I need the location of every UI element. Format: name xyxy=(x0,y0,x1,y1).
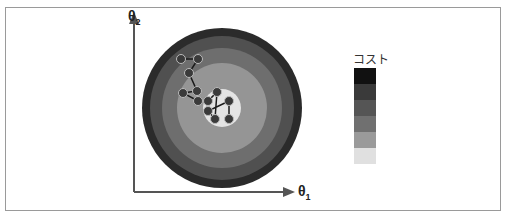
y-axis-label: θ2 xyxy=(128,8,141,27)
path-point xyxy=(194,55,203,64)
path-point xyxy=(179,89,188,98)
cost-legend-bar xyxy=(354,68,376,164)
x-axis-arrow-icon xyxy=(283,187,295,197)
path-point xyxy=(211,115,220,124)
legend-swatch xyxy=(354,116,376,132)
path-point xyxy=(177,55,186,64)
legend-swatch xyxy=(354,100,376,116)
path-point xyxy=(194,97,203,106)
path-point xyxy=(193,87,202,96)
path-point xyxy=(204,97,213,106)
cost-contour-rings xyxy=(142,28,302,188)
legend-title: コスト xyxy=(353,50,389,67)
legend-swatch xyxy=(354,132,376,148)
x-axis-label: θ1 xyxy=(298,183,311,202)
contour-diagram xyxy=(0,0,507,216)
path-point xyxy=(225,97,234,106)
path-point xyxy=(204,107,213,116)
legend-swatch xyxy=(354,84,376,100)
path-point xyxy=(213,88,222,97)
path-point xyxy=(185,69,194,78)
path-point xyxy=(225,115,234,124)
legend-swatch xyxy=(354,148,376,164)
legend-swatch xyxy=(354,68,376,84)
